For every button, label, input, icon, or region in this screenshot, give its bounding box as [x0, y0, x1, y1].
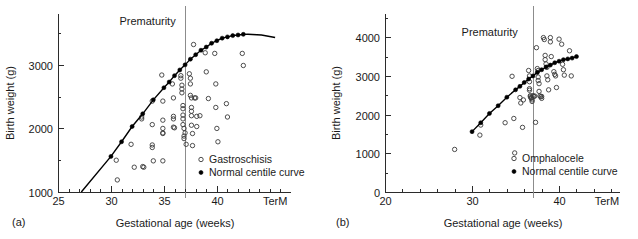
- centile-curve-point: [557, 59, 561, 63]
- centile-curve-point: [236, 33, 240, 37]
- scatter-point-open: [240, 51, 244, 55]
- centile-curve-point: [487, 111, 491, 115]
- x-tick-label: 30: [105, 195, 117, 207]
- scatter-point-open: [184, 142, 188, 146]
- centile-curve-point: [553, 61, 557, 65]
- scatter-point-open: [161, 99, 165, 103]
- scatter-point-open: [543, 57, 547, 61]
- scatter-point-open: [560, 62, 564, 66]
- centile-curve-point: [522, 80, 526, 84]
- centile-curve-point: [210, 41, 214, 45]
- centile-curve-point: [173, 74, 177, 78]
- x-tick-label-term: TerM: [263, 195, 287, 207]
- y-axis-title: Birth weight (g): [4, 66, 16, 140]
- scatter-point-open: [452, 147, 456, 151]
- panel-label: (b): [336, 216, 349, 228]
- centile-curve-point: [167, 80, 171, 84]
- centile-curve-point: [566, 57, 570, 61]
- scatter-point-open: [195, 124, 199, 128]
- scatter-point-open: [190, 131, 194, 135]
- scatter-point-open: [554, 85, 558, 89]
- centile-curve-point: [527, 77, 531, 81]
- scatter-point-open: [510, 74, 514, 78]
- x-tick-label: 35: [158, 195, 170, 207]
- legend-filled-dot-icon: [199, 171, 203, 175]
- scatter-point-open: [161, 126, 165, 130]
- x-tick-label: 40: [553, 195, 565, 207]
- y-tick-label: 3000: [29, 60, 53, 72]
- y-tick-label: 4000: [356, 32, 380, 44]
- y-tick-label: 2000: [356, 110, 380, 122]
- scatter-point-open: [181, 107, 185, 111]
- centile-curve-point: [241, 32, 245, 36]
- scatter-point-open: [160, 73, 164, 77]
- scatter-point-open: [188, 76, 192, 80]
- scatter-point-open: [534, 45, 538, 49]
- centile-curve-point: [544, 65, 548, 69]
- scatter-point-open: [512, 116, 516, 120]
- centile-curve-point: [204, 45, 208, 49]
- scatter-point-open: [552, 69, 556, 73]
- scatter-point-open: [189, 123, 193, 127]
- scatter-point-open: [224, 101, 228, 105]
- centile-curve-point: [120, 140, 124, 144]
- y-tick-label: 2000: [29, 123, 53, 135]
- centile-curve-point: [518, 84, 522, 88]
- scatter-point-open: [521, 98, 525, 102]
- scatter-point-open: [526, 68, 530, 72]
- scatter-point-open: [567, 49, 571, 53]
- scatter-point-open: [132, 165, 136, 169]
- scatter-point-open: [161, 159, 165, 163]
- scatter-point-open: [559, 42, 563, 46]
- legend-filled-dot-icon: [512, 170, 516, 174]
- prematurity-annotation: Prematurity: [462, 26, 519, 38]
- scatter-point-open: [150, 122, 154, 126]
- scatter-point-open: [215, 126, 219, 130]
- legend-label: Normal centile curve: [522, 165, 618, 177]
- figure-container: 25303540TerM100020003000Prematurity(a)Ge…: [0, 0, 638, 239]
- centile-curve-point: [215, 39, 219, 43]
- centile-curve-point: [479, 121, 483, 125]
- centile-curve-point: [220, 36, 224, 40]
- scatter-point-open: [129, 142, 133, 146]
- prematurity-annotation: Prematurity: [119, 15, 176, 27]
- legend-open-circle-icon: [512, 156, 516, 160]
- centile-curve-point: [231, 34, 235, 38]
- scatter-point-open: [187, 72, 191, 76]
- scatter-point-open: [114, 158, 118, 162]
- centile-curve-point: [141, 112, 145, 116]
- x-tick-label: 25: [52, 195, 64, 207]
- scatter-point-open: [203, 51, 207, 55]
- scatter-point-open: [543, 53, 547, 57]
- centile-curve-point: [535, 70, 539, 74]
- panel-a: 25303540TerM100020003000Prematurity(a)Ge…: [0, 0, 320, 239]
- y-tick-label: 1000: [29, 187, 53, 199]
- scatter-point-open: [190, 143, 194, 147]
- scatter-point-open: [213, 51, 217, 55]
- scatter-point-open: [557, 37, 561, 41]
- centile-curve-point: [188, 57, 192, 61]
- centile-curve-point: [194, 53, 198, 57]
- centile-curve-point: [178, 68, 182, 72]
- scatter-point-open: [548, 40, 552, 44]
- centile-curve-point: [574, 55, 578, 59]
- centile-curve-point: [505, 95, 509, 99]
- scatter-point-open: [216, 140, 220, 144]
- scatter-point-open: [569, 74, 573, 78]
- x-tick-label: 40: [211, 195, 223, 207]
- panel-a-plot: 25303540TerM100020003000Prematurity(a)Ge…: [0, 0, 320, 239]
- panel-label: (a): [12, 216, 25, 228]
- scatter-point-open: [520, 125, 524, 129]
- centile-curve-point: [540, 68, 544, 72]
- scatter-point-open: [214, 82, 218, 86]
- scatter-point-open: [478, 133, 482, 137]
- y-tick-label: 0: [374, 187, 380, 199]
- centile-curve-point: [151, 98, 155, 102]
- centile-curve-point: [496, 104, 500, 108]
- scatter-point-open: [537, 89, 541, 93]
- centile-curve-point: [199, 48, 203, 52]
- centile-curve-point: [183, 63, 187, 67]
- scatter-point-open: [512, 151, 516, 155]
- scatter-point-open: [503, 121, 507, 125]
- centile-curve-point: [470, 130, 474, 134]
